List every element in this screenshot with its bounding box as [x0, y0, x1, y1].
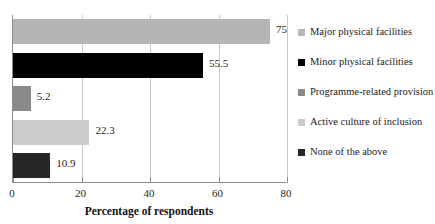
bar-value-label: 55.5	[209, 57, 228, 69]
legend-item[interactable]: Minor physical facilities	[298, 56, 435, 86]
legend-item-label: Programme-related provision	[310, 86, 433, 98]
chart-legend: Major physical facilitiesMinor physical …	[298, 26, 435, 176]
bar[interactable]	[13, 86, 31, 111]
legend-item-label: Active culture of inclusion	[310, 116, 422, 128]
legend-swatch-icon	[298, 29, 305, 36]
bar[interactable]	[13, 153, 50, 178]
bar[interactable]	[13, 53, 203, 78]
bar[interactable]	[13, 120, 89, 145]
legend-item[interactable]: Major physical facilities	[298, 26, 435, 56]
plot-area: 7555.55.222.310.9	[12, 15, 286, 183]
gridline	[287, 15, 288, 182]
bar-value-label: 22.3	[95, 124, 114, 136]
x-tick-label: 20	[75, 187, 86, 199]
bar[interactable]	[13, 19, 270, 44]
legend-swatch-icon	[298, 59, 305, 66]
x-axis-title: Percentage of respondents	[12, 205, 286, 217]
x-tick-label: 60	[212, 187, 223, 199]
bar-value-label: 75	[276, 23, 287, 35]
bar-row: 10.9	[13, 149, 286, 183]
bar-row: 55.5	[13, 49, 286, 83]
legend-swatch-icon	[298, 119, 305, 126]
bar-value-label: 5.2	[37, 90, 51, 102]
legend-item[interactable]: None of the above	[298, 146, 435, 176]
x-tick-label: 40	[144, 187, 155, 199]
legend-item-label: None of the above	[310, 146, 387, 158]
legend-item[interactable]: Programme-related provision	[298, 86, 435, 116]
bar-chart: 7555.55.222.310.9 Percentage of responde…	[0, 0, 435, 224]
bar-row: 75	[13, 15, 286, 49]
bar-row: 22.3	[13, 116, 286, 150]
legend-item[interactable]: Active culture of inclusion	[298, 116, 435, 146]
x-tick-mark	[287, 177, 288, 183]
legend-swatch-icon	[298, 149, 305, 156]
legend-swatch-icon	[298, 89, 305, 96]
x-tick-label: 80	[281, 187, 292, 199]
legend-item-label: Minor physical facilities	[310, 56, 413, 68]
bar-row: 5.2	[13, 82, 286, 116]
legend-item-label: Major physical facilities	[310, 26, 412, 38]
bar-value-label: 10.9	[56, 157, 75, 169]
x-tick-label: 0	[9, 187, 15, 199]
